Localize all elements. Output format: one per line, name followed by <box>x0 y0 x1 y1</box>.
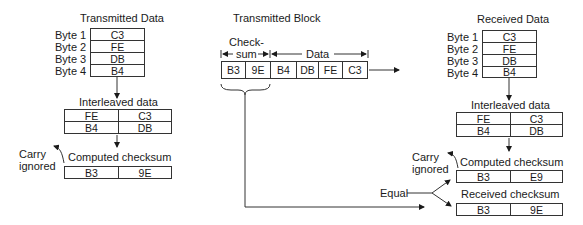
checksum-label: sum <box>235 48 258 60</box>
transmitted-data-title: Transmitted Data <box>80 12 164 24</box>
block-cell: B3 <box>221 61 246 79</box>
received-checksum-title: Received checksum <box>461 188 559 200</box>
checksum-cell: B3 <box>456 170 511 183</box>
interleaved-data-title: Interleaved data <box>471 99 550 111</box>
carry-label: ignored <box>412 163 449 175</box>
checksum-cell: 9E <box>118 166 172 179</box>
byte-label: Byte 2 <box>447 43 478 55</box>
received-data-title: Received Data <box>477 13 549 25</box>
block-cell: DB <box>296 61 319 79</box>
checksum-cell: B3 <box>64 166 119 179</box>
byte-cell: B4 <box>90 64 145 77</box>
data-label: Data <box>305 48 330 60</box>
carry-label: ignored <box>19 160 56 172</box>
interleaved-data-title: Interleaved data <box>79 96 158 108</box>
block-cell: FE <box>318 61 343 79</box>
equal-label: Equal <box>380 187 408 199</box>
byte-label: Byte 4 <box>447 67 478 79</box>
interleaved-cell: B4 <box>64 121 119 134</box>
block-cell: B4 <box>270 61 297 79</box>
computed-checksum-title: Computed checksum <box>460 156 563 168</box>
carry-label: Carry <box>412 151 439 163</box>
block-cell: C3 <box>342 61 368 79</box>
checksum-cell: B3 <box>456 203 511 216</box>
checksum-cell: E9 <box>510 170 563 183</box>
checksum-label: Check- <box>229 36 264 48</box>
byte-label: Byte 4 <box>55 65 86 77</box>
byte-label: Byte 3 <box>55 53 86 65</box>
interleaved-cell: DB <box>510 124 563 137</box>
interleaved-cell: B4 <box>456 124 511 137</box>
block-cell: 9E <box>245 61 271 79</box>
checksum-cell: 9E <box>510 203 563 216</box>
transmitted-block-title: Transmitted Block <box>233 12 321 24</box>
interleaved-cell: DB <box>118 121 172 134</box>
byte-label: Byte 2 <box>55 41 86 53</box>
byte-label: Byte 3 <box>447 55 478 67</box>
computed-checksum-title: Computed checksum <box>68 151 171 163</box>
byte-label: Byte 1 <box>55 29 86 41</box>
byte-cell: B4 <box>482 66 537 78</box>
byte-label: Byte 1 <box>447 31 478 43</box>
carry-label: Carry <box>19 148 46 160</box>
